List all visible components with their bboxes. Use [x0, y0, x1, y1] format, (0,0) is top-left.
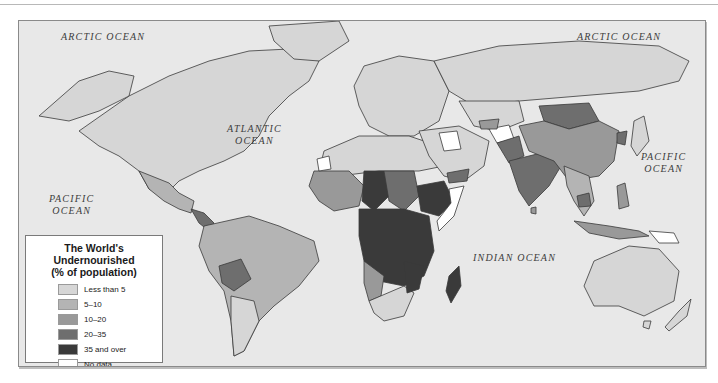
region-west-africa	[309, 171, 364, 211]
legend-item-less-than-5: Less than 5	[58, 282, 162, 297]
legend-swatch	[58, 359, 78, 367]
ocean-label-pacific-east-line2: OCEAN	[641, 163, 686, 175]
region-cambodia	[577, 193, 591, 207]
legend-label: No data	[84, 360, 112, 367]
ocean-label-indian: INDIAN OCEAN	[473, 252, 556, 264]
legend-label: Less than 5	[84, 285, 125, 294]
legend-item-35-and-over: 35 and over	[58, 342, 162, 357]
ocean-label-atlantic: ATLANTIC OCEAN	[227, 123, 282, 147]
ocean-label-pacific-east: PACIFIC OCEAN	[641, 151, 686, 175]
legend-label: 20–35	[84, 330, 106, 339]
region-southern-cone	[231, 296, 259, 356]
ocean-label-pacific-west-line2: OCEAN	[49, 205, 94, 217]
region-russia	[434, 41, 689, 106]
legend-item-20-35: 20–35	[58, 327, 162, 342]
ocean-label-atlantic-line2: OCEAN	[227, 135, 282, 147]
legend-swatch	[58, 314, 78, 325]
legend-swatch	[58, 284, 78, 295]
legend-title-line2: (% of population)	[26, 266, 162, 278]
region-sri-lanka	[531, 207, 536, 214]
region-europe	[354, 56, 449, 136]
region-mozambique	[404, 261, 424, 293]
region-uzbekistan	[479, 119, 499, 129]
region-japan	[631, 116, 649, 156]
legend-swatch	[58, 329, 78, 340]
legend-item-no-data: No data	[58, 357, 162, 367]
legend-title: The World's Undernourished (% of populat…	[26, 242, 162, 278]
legend-title-line1: The World's Undernourished	[26, 242, 162, 266]
region-sudan	[384, 171, 419, 211]
world-map: ARCTIC OCEAN ARCTIC OCEAN ATLANTIC OCEAN…	[18, 20, 706, 367]
region-tasmania	[643, 321, 651, 329]
map-legend: The World's Undernourished (% of populat…	[25, 235, 163, 363]
region-north-korea	[617, 131, 627, 145]
legend-label: 10–20	[84, 315, 106, 324]
region-western-sahara	[317, 156, 331, 171]
ocean-label-arctic-west: ARCTIC OCEAN	[61, 31, 145, 43]
region-south-america	[199, 216, 319, 356]
legend-swatch	[58, 299, 78, 310]
region-australia	[584, 246, 679, 316]
region-madagascar	[446, 266, 461, 303]
legend-items: Less than 5 5–10 10–20 20–35 35 and over…	[58, 282, 162, 367]
legend-label: 5–10	[84, 300, 102, 309]
ocean-label-pacific-east-line1: PACIFIC	[641, 151, 686, 163]
region-indonesia	[574, 221, 649, 239]
legend-item-5-10: 5–10	[58, 297, 162, 312]
legend-swatch	[58, 344, 78, 355]
legend-label: 35 and over	[84, 345, 126, 354]
ocean-label-pacific-west: PACIFIC OCEAN	[49, 193, 94, 217]
ocean-label-atlantic-line1: ATLANTIC	[227, 123, 282, 135]
ocean-label-arctic-east: ARCTIC OCEAN	[577, 31, 661, 43]
region-papua	[649, 231, 679, 243]
page-top-rule	[0, 4, 718, 5]
legend-item-10-20: 10–20	[58, 312, 162, 327]
region-north-america	[79, 49, 319, 196]
ocean-label-pacific-west-line1: PACIFIC	[49, 193, 94, 205]
region-philippines	[617, 183, 629, 209]
